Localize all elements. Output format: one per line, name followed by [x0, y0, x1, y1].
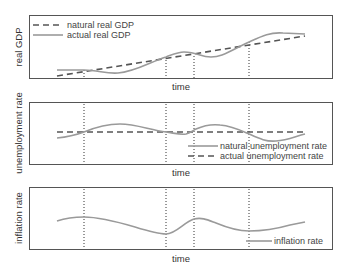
legend-actual-real-gdp: actual real GDP — [67, 30, 131, 40]
panel-inflation-rate: inflation rate inflation rate time — [13, 188, 333, 265]
panel-unemployment-rate: natural unemployment rate actual unemplo… — [13, 92, 333, 178]
three-panel-chart: natural real GDP actual real GDP real GD… — [0, 0, 350, 270]
panel-real-gdp: natural real GDP actual real GDP real GD… — [13, 16, 333, 93]
y-axis-label: inflation rate — [13, 192, 24, 244]
legend-inflation-rate: inflation rate — [274, 236, 323, 246]
y-axis-label: unemployment rate — [13, 92, 24, 173]
x-axis-label: time — [172, 253, 190, 264]
y-axis-label: real GDP — [13, 27, 24, 66]
legend-actual-unemployment: actual unemployment rate — [220, 151, 324, 161]
inflation-rate-line — [57, 217, 305, 234]
x-axis-label: time — [172, 81, 190, 92]
legend-natural-unemployment: natural unemployment rate — [220, 141, 327, 151]
legend-natural-real-gdp: natural real GDP — [67, 20, 134, 30]
x-axis-label: time — [172, 167, 190, 178]
